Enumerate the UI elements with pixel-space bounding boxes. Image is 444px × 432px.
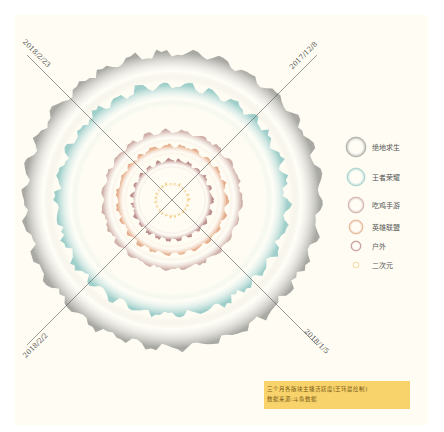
axis-date-label: 2018/1/5 <box>302 328 330 356</box>
legend-label: 户外 <box>372 242 386 251</box>
legend-label: 绝地求生 <box>372 143 400 152</box>
radial-chart: 2017/12/82018/1/52018/2/22018/2/23 绝地求生王… <box>0 0 444 432</box>
legend-swatch <box>351 241 361 251</box>
legend-group: 绝地求生王者荣耀吃鸡手游英雄联盟户外二次元 <box>346 137 400 270</box>
legend-label: 吃鸡手游 <box>372 201 400 210</box>
caption-title: 三个月各版块主播活跃度(王玮晨绘制) <box>267 384 407 394</box>
legend-swatch <box>347 168 365 186</box>
rings-group <box>21 50 322 353</box>
legend-swatch <box>353 262 359 268</box>
legend-swatch <box>349 220 363 234</box>
legend-label: 王者荣耀 <box>372 173 400 182</box>
legend-label: 二次元 <box>372 261 393 270</box>
caption-source: 数据来源:斗鱼数据 <box>267 394 407 404</box>
legend-swatch <box>348 197 364 213</box>
caption-box: 三个月各版块主播活跃度(王玮晨绘制) 数据来源:斗鱼数据 <box>264 381 410 409</box>
legend-swatch <box>346 137 366 157</box>
axis-date-label: 2018/2/2 <box>22 332 50 360</box>
axis-date-label: 2017/12/8 <box>288 40 319 71</box>
legend-label: 英雄联盟 <box>372 223 400 232</box>
